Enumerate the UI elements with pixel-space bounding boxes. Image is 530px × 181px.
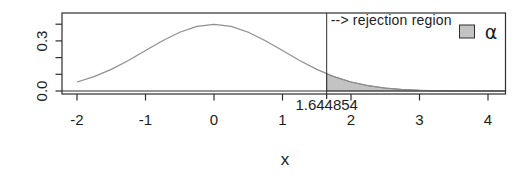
- x-axis-tick-label: 0: [210, 112, 218, 127]
- x-axis-tick-label: 4: [484, 112, 492, 127]
- figure-root: 0.3 0.0 -2 -1 0 1 2 3 4 1.644854 --> rej…: [0, 0, 530, 181]
- y-axis-tick-label: 0.3: [34, 30, 49, 51]
- x-axis-tick-label: -1: [139, 112, 152, 127]
- x-axis-tick-label: 1: [278, 112, 286, 127]
- x-axis-tick-label: -2: [70, 112, 83, 127]
- x-axis-title: x: [281, 151, 290, 168]
- legend-alpha-label: α: [485, 23, 498, 42]
- y-axis-tick-label: 0.0: [34, 81, 49, 102]
- normal-curve: [77, 24, 505, 91]
- x-axis-tick-label: 3: [415, 112, 423, 127]
- legend-swatch: [460, 25, 475, 38]
- x-axis-tick-label: 2: [347, 112, 355, 127]
- critical-value-label: 1.644854: [295, 97, 358, 112]
- rejection-region-annotation: --> rejection region: [331, 13, 452, 28]
